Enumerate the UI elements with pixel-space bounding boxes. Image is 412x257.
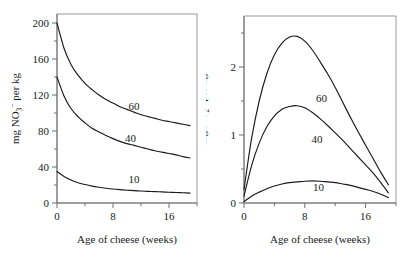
- x-tick-label: 8: [110, 210, 116, 222]
- curve-label-10: 10: [129, 173, 141, 185]
- plot-frame: [244, 16, 396, 203]
- curve-label-40: 40: [125, 132, 137, 144]
- curve-10: [57, 172, 190, 194]
- y-tick-label: 160: [33, 53, 50, 65]
- figure-two-panel-chart: 081604080120160200604010Age of cheese (w…: [0, 0, 412, 257]
- x-axis-title: Age of cheese (weeks): [77, 233, 177, 246]
- curve-label-60: 60: [316, 92, 328, 104]
- y-axis-title-group: mg NO2− per kg: [206, 73, 211, 145]
- x-axis-title: Age of cheese (weeks): [270, 233, 370, 246]
- y-tick-label: 80: [38, 125, 50, 137]
- curve-60: [57, 23, 190, 126]
- chart-panel-nitrite: 0816012604010Age of cheese (weeks)mg NO2…: [206, 0, 412, 257]
- y-tick-label: 200: [33, 17, 50, 29]
- nitrate-plot: 081604080120160200604010Age of cheese (w…: [0, 0, 206, 257]
- x-tick-label: 0: [241, 210, 247, 222]
- x-tick-label: 16: [360, 210, 372, 222]
- y-tick-label: 120: [33, 89, 50, 101]
- y-tick-label: 40: [38, 161, 50, 173]
- plot-frame: [57, 14, 197, 203]
- y-axis-title-group: mg NO3− per kg: [8, 72, 24, 144]
- y-tick-label: 1: [231, 129, 237, 141]
- curve-40: [57, 77, 190, 158]
- y-axis-title: mg NO3− per kg: [8, 72, 24, 144]
- y-tick-label: 2: [231, 61, 237, 73]
- curve-label-10: 10: [313, 181, 325, 193]
- axis-lines: [57, 14, 197, 203]
- x-tick-label: 0: [54, 210, 60, 222]
- y-tick-label: 0: [231, 197, 237, 209]
- y-tick-label: 0: [44, 197, 50, 209]
- curve-label-40: 40: [311, 133, 323, 145]
- x-tick-label: 8: [302, 210, 308, 222]
- y-axis-title: mg NO2− per kg: [206, 73, 211, 145]
- nitrite-plot: 0816012604010Age of cheese (weeks)mg NO2…: [206, 0, 412, 257]
- curve-label-60: 60: [129, 100, 141, 112]
- chart-panel-nitrate: 081604080120160200604010Age of cheese (w…: [0, 0, 206, 257]
- x-tick-label: 16: [164, 210, 176, 222]
- axis-lines: [244, 16, 396, 203]
